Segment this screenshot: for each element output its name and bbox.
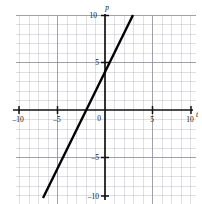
x-tick-label-pos10: 10 xyxy=(186,115,194,124)
origin-label: 0 xyxy=(97,114,101,123)
y-axis-name: p xyxy=(104,3,109,12)
y-tick-label-pos10: 10 xyxy=(90,11,98,20)
coordinate-plane: –10 –5 0 5 10 10 5 –5 –10 t p xyxy=(0,0,202,204)
graph-figure: –10 –5 0 5 10 10 5 –5 –10 t p xyxy=(0,0,202,204)
y-tick-label-pos5: 5 xyxy=(95,58,99,67)
x-tick-label-pos5: 5 xyxy=(150,115,154,124)
y-tick-label-neg5: –5 xyxy=(91,153,100,162)
y-tick-label-neg10: –10 xyxy=(87,192,100,201)
x-tick-label-neg5: –5 xyxy=(52,115,61,124)
x-tick-label-neg10: –10 xyxy=(11,115,24,124)
